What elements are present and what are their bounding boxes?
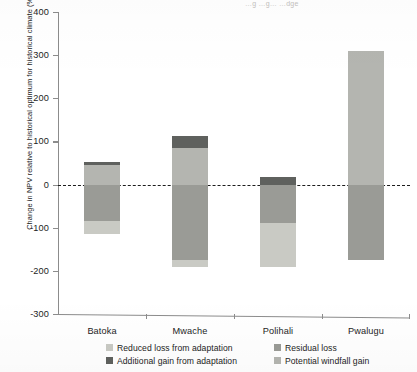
y-axis-tick-label: 200 <box>33 93 49 103</box>
legend-label: Additional gain from adaptation <box>117 356 237 366</box>
bar-segment <box>172 136 208 148</box>
x-axis-tick <box>234 314 235 319</box>
figure: …g …g… …dge Change in NPV relative to hi… <box>0 0 417 372</box>
cutoff-header-text: …g …g… …dge <box>245 0 410 9</box>
x-axis-category-label: Batoka <box>87 326 116 336</box>
x-axis-tick <box>146 314 147 319</box>
legend-label: Potential windfall gain <box>285 356 369 366</box>
plot-area: 4003002001000-100-200-300 BatokaMwachePo… <box>58 12 410 314</box>
legend-swatch <box>274 344 281 351</box>
y-axis-tick-label: 400 <box>33 7 49 17</box>
bar-segment <box>172 185 208 261</box>
bar-segment <box>348 51 384 185</box>
y-axis-tick-label: 300 <box>33 50 49 60</box>
y-axis-tick <box>53 314 58 315</box>
legend: Reduced loss from adaptationResidual los… <box>106 341 376 367</box>
legend-label: Residual loss <box>285 343 337 353</box>
y-axis-tick <box>53 228 58 229</box>
bar-stack <box>348 12 384 314</box>
bar-stack <box>260 12 296 314</box>
y-axis-spine <box>58 12 59 314</box>
y-axis-tick <box>53 98 58 99</box>
y-axis-tick-label: 100 <box>33 136 49 146</box>
legend-swatch <box>106 357 113 364</box>
y-axis-title: Change in NPV relative to historical opt… <box>25 0 34 238</box>
y-axis-tick <box>53 12 58 13</box>
bar-segment <box>84 185 120 222</box>
bar-segment <box>84 165 120 185</box>
y-axis-tick-label: -200 <box>30 266 49 276</box>
x-axis-tick <box>322 314 323 319</box>
legend-item: Potential windfall gain <box>274 356 394 366</box>
legend-swatch <box>274 357 281 364</box>
bar-segment <box>260 177 296 184</box>
legend-label: Reduced loss from adaptation <box>117 343 233 353</box>
bar-segment <box>260 223 296 268</box>
y-axis-tick <box>53 271 58 272</box>
x-axis-category-label: Polihali <box>263 326 293 336</box>
legend-item: Residual loss <box>274 343 394 353</box>
x-axis-category-label: Mwache <box>173 326 208 336</box>
bar-segment <box>84 221 120 234</box>
bar-segment <box>172 260 208 267</box>
x-axis-tick <box>409 314 410 319</box>
y-axis-tick-label: 0 <box>44 180 49 190</box>
legend-item: Reduced loss from adaptation <box>106 343 274 353</box>
bar-segment <box>172 148 208 185</box>
y-axis-tick <box>53 55 58 56</box>
bar-stack <box>84 12 120 314</box>
x-axis-category-label: Pwalugu <box>348 326 384 336</box>
bar-stack <box>172 12 208 314</box>
y-axis-tick-label: -100 <box>30 223 49 233</box>
legend-item: Additional gain from adaptation <box>106 356 274 366</box>
bar-segment <box>348 185 384 261</box>
legend-swatch <box>106 344 113 351</box>
bar-segment <box>260 185 296 223</box>
y-axis-tick <box>53 141 58 142</box>
y-axis-tick-label: -300 <box>30 309 49 319</box>
